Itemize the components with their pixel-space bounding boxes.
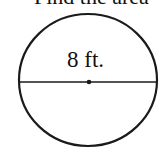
diameter-label: 8 ft. [67,48,104,72]
circle-diagram [0,0,166,156]
center-point [87,80,92,85]
